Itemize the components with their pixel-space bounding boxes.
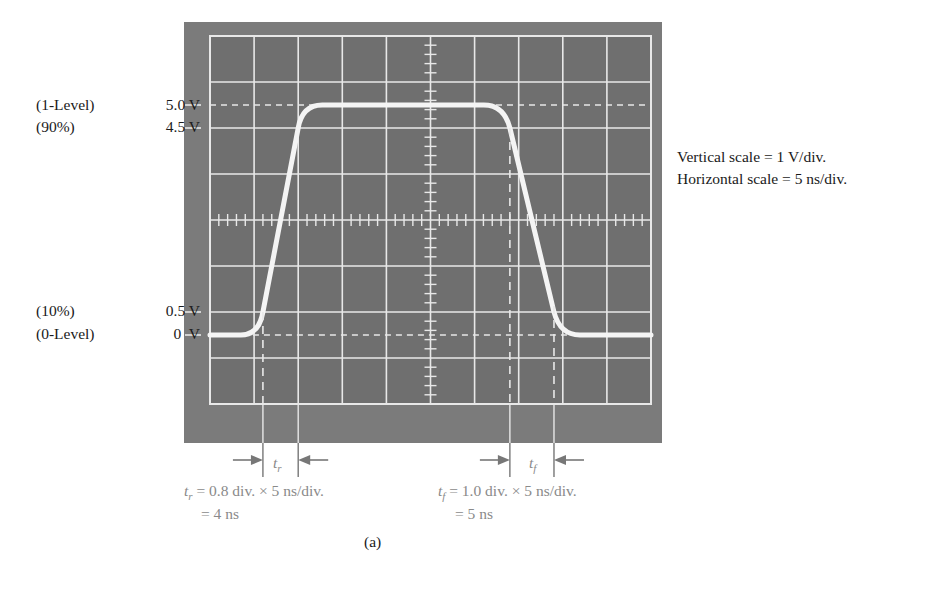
oscilloscope-display bbox=[0, 0, 933, 592]
fall-time-symbol: tf bbox=[529, 455, 536, 474]
figure-caption: (a) bbox=[364, 533, 381, 551]
scope-graticule bbox=[210, 36, 651, 404]
rise-left-arrow-head bbox=[251, 455, 263, 465]
fall-left-arrow-head bbox=[498, 455, 510, 465]
level-voltage-0-5v: 0.5 V bbox=[140, 303, 200, 319]
level-voltage-4-5v: 4.5 V bbox=[140, 119, 200, 135]
level-label-0: (0-Level) bbox=[36, 326, 95, 342]
level-label-1: (1-Level) bbox=[36, 97, 95, 113]
level-voltage-0v: 0 V bbox=[140, 326, 200, 342]
rise-time-formula: tr = 0.8 div. × 5 ns/div. bbox=[184, 483, 324, 502]
horizontal-scale-note: Horizontal scale = 5 ns/div. bbox=[677, 171, 847, 187]
fall-time-result: = 5 ns bbox=[455, 506, 493, 522]
fall-right-arrow-head bbox=[554, 455, 566, 465]
fall-time-formula: tf = 1.0 div. × 5 ns/div. bbox=[438, 483, 577, 502]
rise-time-result: = 4 ns bbox=[201, 506, 239, 522]
rise-right-arrow-head bbox=[298, 455, 310, 465]
rise-time-symbol: tr bbox=[273, 455, 282, 474]
level-label-10: (10%) bbox=[36, 303, 75, 319]
level-voltage-5v: 5.0 V bbox=[140, 97, 200, 113]
level-label-90: (90%) bbox=[36, 119, 75, 135]
vertical-scale-note: Vertical scale = 1 V/div. bbox=[677, 149, 826, 165]
